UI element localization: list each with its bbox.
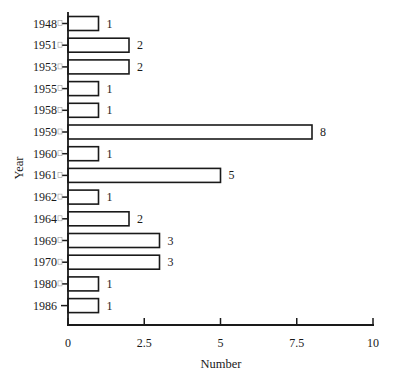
bar-1960 [68, 147, 99, 161]
value-label-1970: 3 [168, 255, 174, 269]
bar-chart: 12211815123311 1948195119531955195819591… [0, 0, 394, 383]
value-label-1980: 1 [107, 277, 113, 291]
placeholder-glyph-icon [58, 238, 62, 243]
placeholder-glyph-icon [58, 151, 62, 156]
bar-1961 [68, 168, 221, 182]
x-axis-title: Number [201, 357, 243, 371]
placeholder-glyph-icon [58, 129, 62, 134]
x-tick-label: 7.5 [289, 336, 304, 350]
y-tick-label-1970: 1970 [33, 255, 57, 269]
bar-1970 [68, 255, 160, 269]
bars-group: 12211815123311 [68, 17, 326, 313]
y-tick-label-1964: 1964 [33, 212, 57, 226]
value-label-1964: 2 [137, 212, 143, 226]
y-tick-label-1960: 1960 [33, 147, 57, 161]
x-tick-label: 5 [218, 336, 224, 350]
placeholder-glyph-icon [58, 21, 62, 26]
x-tick-label: 10 [367, 336, 379, 350]
bar-1948 [68, 17, 99, 31]
x-tick-label: 2.5 [137, 336, 152, 350]
value-label-1953: 2 [137, 60, 143, 74]
placeholder-glyph-icon [58, 194, 62, 199]
value-label-1962: 1 [107, 190, 113, 204]
y-axis: 1948195119531955195819591960196119621964… [33, 12, 68, 326]
placeholder-glyph-icon [58, 42, 62, 47]
value-label-1948: 1 [107, 17, 113, 31]
value-label-1961: 5 [229, 168, 235, 182]
bar-1958 [68, 103, 99, 117]
placeholder-glyph-icon [58, 172, 62, 177]
bar-1951 [68, 38, 129, 52]
placeholder-glyph-icon [58, 107, 62, 112]
value-label-1951: 2 [137, 38, 143, 52]
placeholder-glyph-icon [58, 259, 62, 264]
value-label-1958: 1 [107, 103, 113, 117]
y-axis-title: Year [12, 156, 26, 180]
placeholder-glyph-icon [58, 281, 62, 286]
y-tick-label-1961: 1961 [33, 168, 57, 182]
bar-1980 [68, 277, 99, 291]
chart-canvas: 12211815123311 1948195119531955195819591… [0, 0, 394, 383]
value-label-1959: 8 [320, 125, 326, 139]
placeholder-glyph-icon [58, 86, 62, 91]
y-tick-label-1955: 1955 [33, 82, 57, 96]
bar-1986 [68, 299, 99, 313]
bar-1959 [68, 125, 312, 139]
bar-1962 [68, 190, 99, 204]
bar-1955 [68, 82, 99, 96]
value-label-1960: 1 [107, 147, 113, 161]
bar-1969 [68, 234, 160, 248]
y-tick-label-1951: 1951 [33, 38, 57, 52]
y-tick-label-1959: 1959 [33, 125, 57, 139]
value-label-1969: 3 [168, 234, 174, 248]
bar-1953 [68, 60, 129, 74]
value-label-1986: 1 [107, 299, 113, 313]
y-tick-label-1953: 1953 [33, 60, 57, 74]
placeholder-glyph-icon [58, 216, 62, 221]
value-label-1955: 1 [107, 82, 113, 96]
y-tick-label-1948: 1948 [33, 17, 57, 31]
y-tick-label-1958: 1958 [33, 103, 57, 117]
y-tick-label-1962: 1962 [33, 190, 57, 204]
y-tick-label-1986: 1986 [33, 299, 57, 313]
x-axis: 02.557.510 [65, 318, 379, 350]
bar-1964 [68, 212, 129, 226]
x-tick-label: 0 [65, 336, 71, 350]
placeholder-glyph-icon [58, 64, 62, 69]
y-tick-label-1980: 1980 [33, 277, 57, 291]
y-tick-label-1969: 1969 [33, 234, 57, 248]
